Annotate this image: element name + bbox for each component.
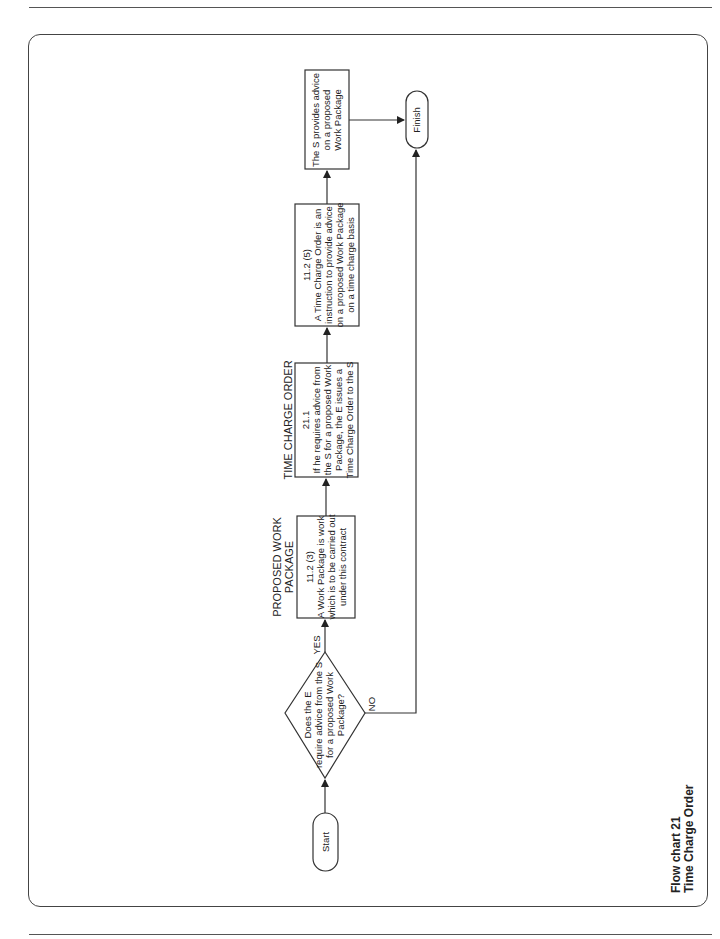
box3-line-4: on a proposed Work Package	[334, 203, 345, 328]
finish-node: Finish	[406, 91, 428, 148]
box2-line-4: Package, the E issues a	[333, 368, 344, 471]
box2-line-1: 21.1	[300, 411, 311, 430]
box-time-charge-order: TIME CHARGE ORDER 21.1 If he requires ad…	[282, 360, 358, 479]
box2-heading: TIME CHARGE ORDER	[282, 360, 294, 479]
decision-line-4: Package?	[335, 694, 346, 736]
box4-line-2: on a proposed	[321, 90, 332, 151]
caption-line-2: Time Charge Order	[682, 784, 696, 893]
decision-line-2: require advice from the S	[313, 662, 324, 768]
decision-node: Does the E require advice from the S for…	[285, 652, 365, 778]
box1-line-1: 11.2 (3)	[304, 551, 315, 583]
box3-line-1: 11.2 (5)	[301, 249, 312, 281]
box1-line-4: under this contract	[337, 528, 348, 607]
decision-line-1: Does the E	[302, 692, 313, 739]
start-label: Start	[320, 832, 331, 852]
box2-line-5: Time Charge Order to the S	[344, 362, 355, 479]
box1-line-3: which is to be carried out	[326, 514, 337, 620]
no-label: NO	[366, 697, 377, 711]
box1-heading-2: PACKAGE	[283, 541, 295, 593]
start-node: Start	[313, 813, 338, 871]
flowchart: Start Does the E require advice from the…	[0, 0, 720, 939]
caption-line-1: Flow chart 21	[669, 816, 683, 893]
box-s-provides-advice: The S provides advice on a proposed Work…	[305, 70, 349, 169]
box2-line-2: If he requires advice from	[311, 366, 322, 473]
box-proposed-work-package: PROPOSED WORK PACKAGE 11.2 (3) A Work Pa…	[271, 514, 355, 620]
box3-line-5: on a time charge basis	[345, 217, 356, 313]
yes-label: YES	[311, 635, 322, 654]
box1-line-2: A Work Package is work	[315, 516, 326, 619]
box1-heading-1: PROPOSED WORK	[271, 517, 283, 617]
box3-line-2: A Time Charge Order is an	[312, 209, 323, 321]
box3-line-3: instruction to provide advice	[323, 206, 334, 324]
box4-line-1: The S provides advice	[310, 73, 321, 167]
box-time-charge-definition: 11.2 (5) A Time Charge Order is an instr…	[295, 203, 359, 328]
box4-line-3: Work Package	[332, 89, 343, 151]
figure-caption: Flow chart 21 Time Charge Order	[669, 784, 696, 893]
decision-line-3: for a proposed Work	[324, 672, 335, 758]
box2-line-3: the S for a proposed Work	[322, 364, 333, 475]
finish-label: Finish	[411, 107, 422, 132]
arrow-no-to-finish	[365, 150, 416, 713]
